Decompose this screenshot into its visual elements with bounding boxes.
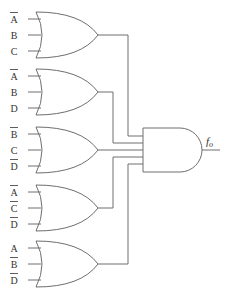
input-label-d: D: [10, 103, 17, 114]
input-label-b-bar: B: [11, 259, 18, 270]
or-gate-5: [36, 241, 98, 287]
input-label-c: C: [11, 46, 18, 57]
input-label-a-bar: A: [10, 187, 18, 198]
or-output-wire-5: [98, 164, 143, 264]
or-gate-2: [36, 69, 98, 115]
or-gate-4: [36, 185, 98, 231]
logic-diagram: ABCABDBCDACDABDfo: [0, 0, 225, 297]
input-label-c: C: [11, 145, 18, 156]
input-label-d-bar: D: [10, 219, 17, 230]
input-label-d-bar: D: [10, 161, 17, 172]
input-label-b-bar: B: [11, 129, 18, 140]
input-label-d-bar: D: [10, 275, 17, 286]
input-label-a: A: [10, 243, 18, 254]
input-label-b: B: [11, 87, 18, 98]
or-gate-1: [36, 12, 98, 58]
output-label: fo: [206, 135, 213, 149]
input-label-b: B: [11, 30, 18, 41]
or-output-wire-2: [98, 92, 143, 143]
input-label-c-bar: C: [11, 203, 18, 214]
or-gate-3: [36, 127, 98, 173]
input-label-a-bar: A: [10, 71, 18, 82]
and-gate: [143, 128, 202, 172]
input-label-a-bar: A: [10, 14, 18, 25]
or-output-wire-1: [98, 35, 143, 136]
or-output-wire-4: [98, 157, 143, 208]
